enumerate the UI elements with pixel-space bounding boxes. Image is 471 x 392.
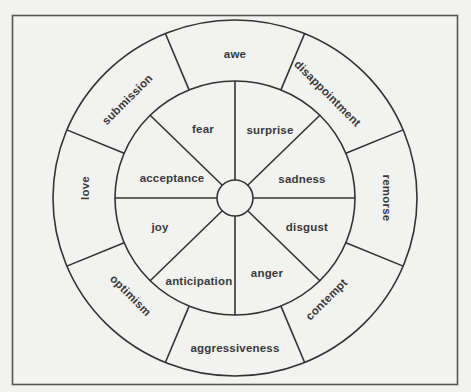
- outer-divider-line: [346, 243, 403, 266]
- dyad-emotion-label-contempt: contempt: [303, 276, 349, 322]
- outer-divider-line: [281, 306, 305, 362]
- primary-emotion-label-disgust: disgust: [286, 221, 328, 233]
- center-circle: [217, 180, 253, 216]
- outer-ring-circle: [53, 20, 417, 376]
- primary-emotion-label-surprise: surprise: [247, 124, 294, 136]
- outer-ring-labels: awedisappointmentremorsecontemptaggressi…: [79, 48, 393, 354]
- inner-ring-dividers: [115, 81, 355, 315]
- outer-divider-line: [346, 130, 403, 153]
- outer-divider-line: [165, 306, 189, 362]
- primary-emotion-label-joy: joy: [150, 221, 169, 233]
- dyad-emotion-label-optimism: optimism: [108, 272, 154, 318]
- primary-emotion-label-anticipation: anticipation: [166, 275, 233, 287]
- outer-divider-line: [165, 34, 189, 90]
- emotion-wheel-diagram: surprisesadnessdisgustangeranticipationj…: [0, 0, 471, 392]
- primary-emotion-label-sadness: sadness: [278, 173, 325, 185]
- primary-emotion-label-anger: anger: [251, 267, 284, 279]
- dyad-emotion-label-disappointment: disappointment: [292, 58, 363, 129]
- primary-emotion-label-fear: fear: [192, 123, 214, 135]
- dyad-emotion-label-aggressiveness: aggressiveness: [190, 342, 279, 354]
- outer-divider-line: [67, 243, 124, 266]
- dyad-emotion-label-awe: awe: [224, 48, 246, 60]
- dyad-emotion-label-love: love: [79, 176, 91, 200]
- primary-emotion-label-acceptance: acceptance: [140, 172, 205, 184]
- dyad-emotion-label-remorse: remorse: [381, 175, 393, 222]
- outer-divider-line: [67, 130, 124, 153]
